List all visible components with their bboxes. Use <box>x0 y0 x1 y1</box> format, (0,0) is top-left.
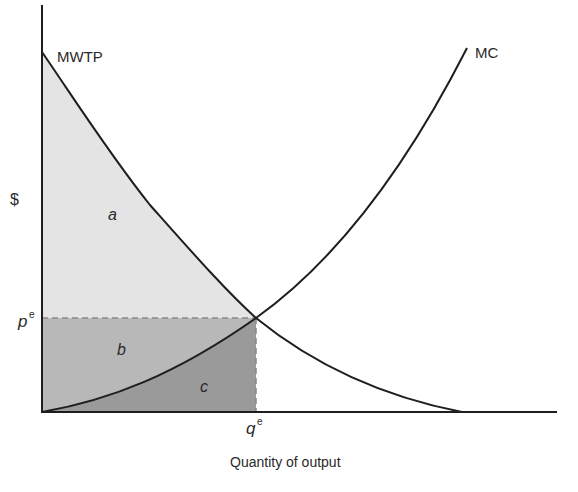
diagram: MWTP MC $ a b c p e q e Quantity of outp… <box>0 0 578 492</box>
region-a <box>42 52 256 318</box>
region-b-label: b <box>117 341 126 358</box>
mwtp-label: MWTP <box>57 48 103 65</box>
region-a-label: a <box>108 206 117 223</box>
svg-text:p: p <box>17 312 27 331</box>
y-axis-label: $ <box>10 191 19 208</box>
svg-text:e: e <box>29 309 35 320</box>
svg-text:e: e <box>257 416 263 427</box>
mc-label: MC <box>475 44 498 61</box>
region-c-label: c <box>200 378 208 395</box>
x-axis-label: Quantity of output <box>230 454 341 470</box>
quantity-label: q e <box>246 416 263 438</box>
price-label: p e <box>17 309 35 331</box>
diagram-canvas: MWTP MC $ a b c p e q e Quantity of outp… <box>0 0 578 492</box>
svg-text:q: q <box>246 419 256 438</box>
